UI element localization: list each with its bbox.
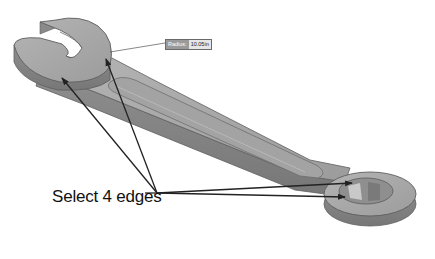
wrench-model-viewport xyxy=(0,0,435,259)
wrench-ring-end[interactable] xyxy=(324,172,416,226)
dimension-leader xyxy=(110,43,165,52)
dimension-label-name: Radius: xyxy=(166,40,189,49)
dimension-label-value: 10.05in xyxy=(189,40,211,49)
callout-text: Select 4 edges xyxy=(52,187,162,207)
dimension-label[interactable]: Radius: 10.05in xyxy=(165,39,212,50)
